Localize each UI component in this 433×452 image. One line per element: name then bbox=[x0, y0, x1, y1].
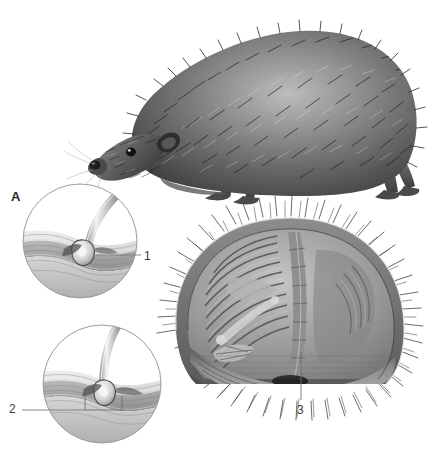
plate-artwork bbox=[0, 0, 433, 452]
hedgehog-lateral-view bbox=[64, 20, 427, 204]
spine-follicle-detail-erect bbox=[22, 320, 161, 443]
hedgehog-spiny-back bbox=[132, 31, 417, 196]
illustration-plate: A 1 2 3 bbox=[0, 0, 433, 452]
ventral-notch bbox=[272, 375, 308, 387]
callout-label-1: 1 bbox=[144, 250, 151, 262]
rolled-hedgehog-cross-section bbox=[157, 196, 423, 420]
spine-follicle-detail-relaxed bbox=[23, 184, 141, 298]
callout-label-A: A bbox=[11, 190, 20, 203]
eye bbox=[126, 148, 136, 157]
callout-label-2: 2 bbox=[9, 403, 16, 415]
nose bbox=[90, 161, 101, 170]
callout-label-3: 3 bbox=[297, 404, 304, 416]
